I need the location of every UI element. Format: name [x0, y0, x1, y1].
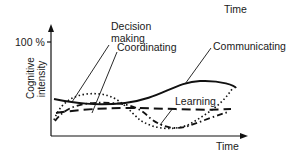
diagram-canvas	[0, 0, 300, 156]
y-axis-arrow-icon	[48, 24, 54, 32]
leader-lines	[72, 45, 211, 125]
decision-making-curve	[55, 103, 228, 128]
communicating-curve	[54, 81, 236, 104]
learning-leader	[160, 108, 173, 125]
axes	[47, 30, 243, 136]
x-axis-arrow-icon	[240, 133, 248, 139]
communicating-leader	[185, 48, 211, 84]
